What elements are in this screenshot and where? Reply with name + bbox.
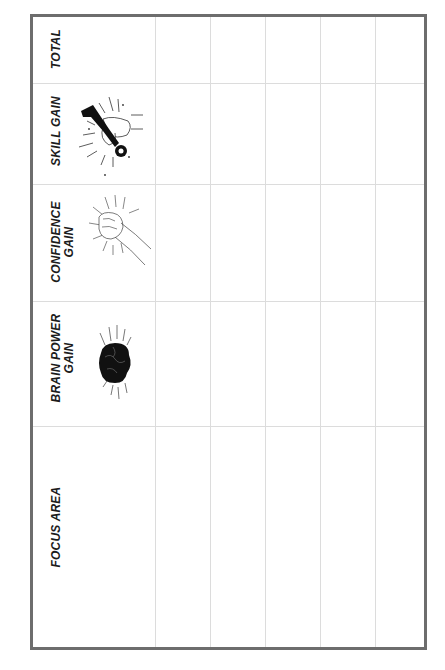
- header-brain-power-gain: BRAIN POWER GAIN: [50, 306, 76, 410]
- header-focus-area: FOCUS AREA: [50, 457, 63, 597]
- table-row-3[interactable]: [266, 17, 320, 647]
- header-confidence-gain-line2: GAIN: [63, 197, 76, 287]
- brain-icon: [95, 323, 135, 407]
- header-total: TOTAL: [50, 27, 63, 71]
- header-total-label: TOTAL: [49, 29, 63, 69]
- header-confidence-gain: CONFIDENCE GAIN: [50, 197, 76, 287]
- header-skill-gain-label: SKILL GAIN: [49, 96, 63, 166]
- table-row-5[interactable]: [376, 17, 424, 647]
- fist-icon: [85, 193, 157, 279]
- worksheet-table: TOTAL SKILL GAIN CONFIDENCE GAIN: [30, 14, 427, 650]
- header-brain-power-gain-line2: GAIN: [63, 306, 76, 410]
- table-row-4[interactable]: [321, 17, 375, 647]
- hand-wrench-icon: [73, 95, 145, 179]
- table-row-2[interactable]: [211, 17, 265, 647]
- header-focus-area-label: FOCUS AREA: [49, 487, 63, 568]
- header-skill-gain: SKILL GAIN: [50, 91, 63, 171]
- table-row-1[interactable]: [156, 17, 210, 647]
